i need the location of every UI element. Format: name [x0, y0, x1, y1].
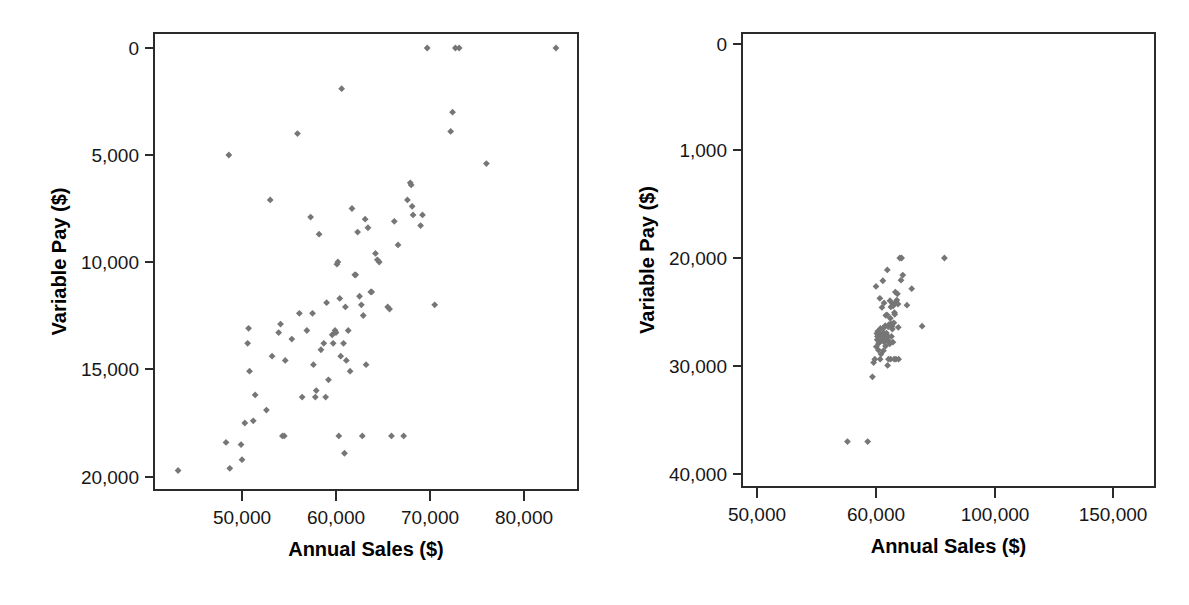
data-point: [410, 212, 417, 219]
x-axis-tick-label: 80,000: [495, 507, 553, 528]
data-point: [362, 216, 369, 223]
data-point: [417, 222, 424, 229]
data-point: [309, 310, 316, 317]
data-point: [341, 450, 348, 457]
data-point: [941, 255, 948, 262]
data-point: [354, 229, 361, 236]
data-point: [873, 283, 880, 290]
data-point: [239, 456, 246, 463]
scatter-plot-figure: 05,00010,00015,00020,00050,00060,00070,0…: [0, 0, 1189, 605]
data-point: [250, 417, 257, 424]
data-point: [345, 327, 352, 334]
data-point: [395, 241, 402, 248]
x-axis-tick-label: 150,000: [1079, 504, 1148, 525]
y-axis-title: Variable Pay ($): [48, 188, 70, 336]
data-point: [347, 368, 354, 375]
data-point: [225, 152, 232, 159]
data-point: [246, 368, 253, 375]
data-point: [483, 160, 490, 167]
plot-frame: [742, 33, 1155, 487]
data-point: [288, 336, 295, 343]
data-point: [359, 433, 366, 440]
data-point: [325, 376, 332, 383]
y-axis-tick-label: 15,000: [81, 359, 139, 380]
x-axis-tick-label: 50,000: [728, 504, 786, 525]
data-point: [358, 301, 365, 308]
data-point: [337, 353, 344, 360]
data-point: [363, 361, 370, 368]
data-point: [323, 299, 330, 306]
x-axis-tick-label: 50,000: [213, 507, 271, 528]
data-point: [349, 205, 356, 212]
data-point: [340, 340, 347, 347]
data-point: [322, 394, 329, 401]
data-point: [313, 387, 320, 394]
data-point: [419, 212, 426, 219]
y-axis-tick-label: 30,000: [669, 356, 727, 377]
chart-panel-left: 05,00010,00015,00020,00050,00060,00070,0…: [0, 0, 595, 605]
y-axis-tick-label: 40,000: [669, 464, 727, 485]
data-point: [884, 267, 891, 274]
plot-frame: [154, 33, 578, 490]
data-point: [449, 109, 456, 116]
data-point: [296, 310, 303, 317]
y-axis-tick-label: 0: [716, 34, 727, 55]
scatter-chart-right: 01,00020,00030,00040,00050,00060,000100,…: [594, 0, 1189, 605]
data-point: [844, 438, 851, 445]
data-point: [252, 392, 259, 399]
data-point: [226, 465, 233, 472]
x-axis-title: Annual Sales ($): [288, 538, 444, 560]
data-point: [400, 433, 407, 440]
data-point: [404, 197, 411, 204]
data-point: [245, 325, 252, 332]
data-point: [409, 203, 416, 210]
data-point: [904, 302, 911, 309]
data-point: [388, 433, 395, 440]
data-point: [267, 197, 274, 204]
chart-panel-right: 01,00020,00030,00040,00050,00060,000100,…: [594, 0, 1189, 605]
x-axis-tick-label: 60,000: [307, 507, 365, 528]
data-point: [277, 321, 284, 328]
data-point: [372, 250, 379, 257]
data-point: [447, 128, 454, 135]
data-point: [238, 441, 245, 448]
data-point: [343, 357, 350, 364]
y-axis-tick-label: 0: [128, 38, 139, 59]
data-point: [335, 433, 342, 440]
data-point: [553, 45, 560, 52]
x-axis-tick-label: 70,000: [401, 507, 459, 528]
data-point: [282, 357, 289, 364]
data-point: [365, 224, 372, 231]
data-point: [263, 407, 270, 414]
data-point: [431, 301, 438, 308]
y-axis-tick-label: 20,000: [669, 248, 727, 269]
plot-area: 01,00020,00030,00040,00050,00060,000100,…: [636, 33, 1155, 557]
data-point: [312, 394, 319, 401]
data-point: [330, 340, 337, 347]
data-point: [320, 340, 327, 347]
data-point: [368, 289, 375, 296]
data-point: [876, 295, 883, 302]
data-point: [877, 356, 884, 363]
data-point: [269, 353, 276, 360]
y-axis-title: Variable Pay ($): [636, 186, 658, 334]
data-point: [175, 467, 182, 474]
data-point: [895, 324, 902, 331]
data-point: [884, 362, 891, 369]
x-axis-tick-label: 60,000: [847, 504, 905, 525]
data-point: [869, 373, 876, 380]
y-axis-tick-label: 10,000: [81, 252, 139, 273]
scatter-chart-left: 05,00010,00015,00020,00050,00060,00070,0…: [0, 0, 595, 605]
data-point: [338, 85, 345, 92]
y-axis-tick-label: 20,000: [81, 467, 139, 488]
data-point: [336, 295, 343, 302]
data-point: [223, 439, 230, 446]
data-point: [244, 340, 251, 347]
data-point: [316, 231, 323, 238]
x-axis-title: Annual Sales ($): [871, 535, 1027, 557]
data-point-group: [175, 45, 560, 474]
data-point: [299, 394, 306, 401]
data-point: [303, 327, 310, 334]
data-point: [360, 312, 367, 319]
data-point: [307, 214, 314, 221]
